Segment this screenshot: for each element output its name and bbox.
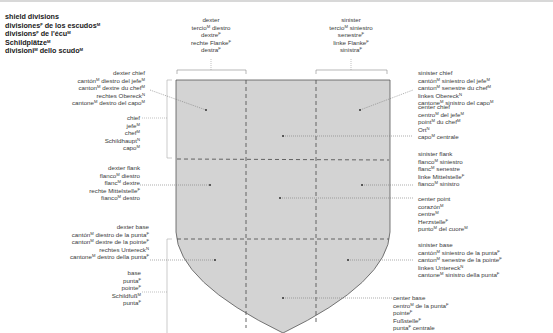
dot-dexter-base xyxy=(214,259,216,261)
dot-sinister-flank xyxy=(361,184,363,186)
label-sinister-chief: sinister chief cantónM siniestro del jef… xyxy=(418,69,553,107)
label-base: base puntaF pointeF SchildfußM puntaF xyxy=(80,269,141,307)
label-center-point: center point corazónM centreM Herzstelle… xyxy=(418,195,553,233)
label-dexter: dexter tercioM diestro dextreF rechte Fl… xyxy=(181,16,241,54)
bracket-base xyxy=(167,239,172,333)
dot-center-base xyxy=(282,297,284,299)
label-chief: chief jefeM chefM SchildhauptN capoM xyxy=(80,114,140,152)
dot-sinister-chief xyxy=(359,109,361,111)
dot-dexter-chief xyxy=(205,109,207,111)
label-sinister: sinister tercioM siniestro senestreF lin… xyxy=(319,16,383,54)
label-center-chief: center chief centroM del jefeM pointM du… xyxy=(418,103,553,141)
label-sinister-flank: sinister flank flancoM siniestro flancM … xyxy=(418,150,553,188)
bracket-dexter xyxy=(177,70,246,74)
label-sinister-base: sinister base cantónM siniestro de la pu… xyxy=(418,241,553,279)
dot-center-point xyxy=(279,197,281,199)
dot-dexter-flank xyxy=(209,184,211,186)
label-dexter-base: dexter base cantónM diestro de la puntaF… xyxy=(10,223,149,261)
bracket-chief xyxy=(167,80,172,158)
dot-center-chief xyxy=(282,135,284,137)
dot-sinister-base xyxy=(347,259,349,261)
label-dexter-flank: dexter flank flancoM diestro flancM dext… xyxy=(40,164,140,202)
label-center-base: center base centroM de la puntaF pointeF… xyxy=(393,294,513,332)
label-dexter-chief: dexter chief cantónM diestro del jefeM c… xyxy=(20,69,145,107)
bracket-sinister xyxy=(316,70,387,74)
shield-shape xyxy=(176,80,390,333)
